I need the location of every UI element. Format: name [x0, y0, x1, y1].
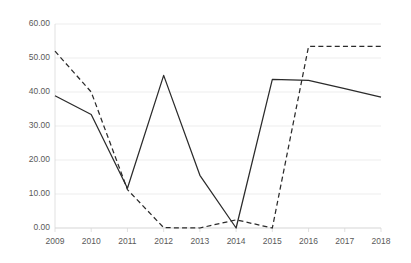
x-tick-label: 2018: [361, 236, 401, 246]
x-tick-label: 2015: [252, 236, 292, 246]
line-chart: 0.0010.0020.0030.0040.0050.0060.00 20092…: [0, 0, 411, 263]
x-tick-label: 2017: [325, 236, 365, 246]
x-tick-label: 2013: [180, 236, 220, 246]
chart-plot-area: [0, 0, 411, 263]
x-tick-label: 2011: [107, 236, 147, 246]
series-line-solid: [55, 75, 381, 228]
x-tick-label: 2009: [35, 236, 75, 246]
x-tickmarks: [55, 228, 381, 232]
x-tick-label: 2014: [216, 236, 256, 246]
x-tick-label: 2012: [144, 236, 184, 246]
x-tick-label: 2016: [289, 236, 329, 246]
x-tick-label: 2010: [71, 236, 111, 246]
